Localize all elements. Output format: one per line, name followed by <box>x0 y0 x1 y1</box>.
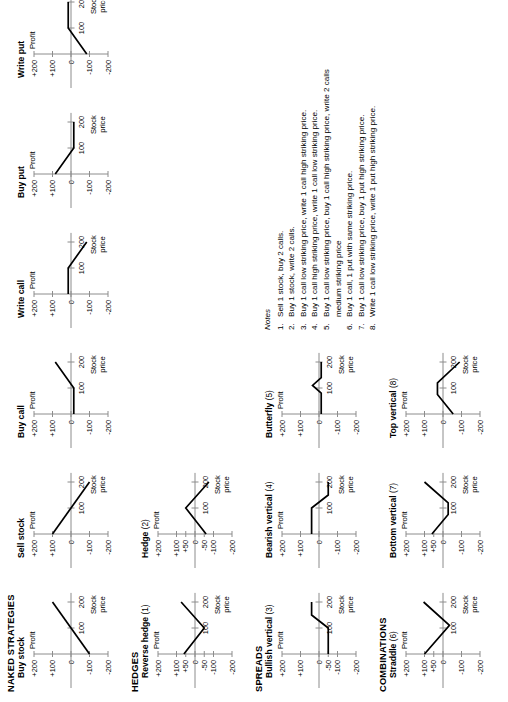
profit-tick-label: +200 <box>402 420 411 437</box>
note-item: 1.Sell 1 stock, buy 2 calls. <box>275 69 287 330</box>
profit-tick-label: +100 <box>296 540 305 557</box>
profit-tick-label: +100 <box>48 660 57 677</box>
profit-tick-label: +200 <box>278 420 287 437</box>
stock-price-tick-label: 100 <box>325 622 334 634</box>
profit-tick-label: +200 <box>278 540 287 557</box>
profit-tick-label: -100 <box>457 420 466 435</box>
stock-price-axis-label-line1: Stock <box>337 475 346 494</box>
note-text: Sell 1 stock, buy 2 calls. <box>276 231 285 317</box>
stock-price-axis-label-line1: Stock <box>89 115 98 134</box>
stock-price-tick-label: 100 <box>77 502 86 514</box>
chart-plot: +200+100+500-100-200100200ProfitStockpri… <box>397 462 493 574</box>
stock-price-axis-label-line2: price <box>470 476 479 492</box>
profit-tick-label: +100 <box>172 660 181 677</box>
note-number: 2. <box>286 317 298 330</box>
chart-hedge: Hedge (2)+200+100+500-50-100-200100200Pr… <box>140 424 252 574</box>
stock-price-axis-label-line1: Stock <box>89 355 98 374</box>
profit-tick-label: +200 <box>30 420 39 437</box>
profit-axis-label: Profit <box>28 150 37 169</box>
rotated-page-wrapper: NAKED STRATEGIES HEDGES SPREADS COMBINAT… <box>0 0 508 702</box>
note-number: 4. <box>309 317 321 330</box>
stock-price-axis-label-line2: price <box>346 476 355 492</box>
stock-price-tick-label: 100 <box>201 622 210 634</box>
stock-price-axis-label-line2: price <box>346 596 355 612</box>
profit-axis-label: Profit <box>28 630 37 649</box>
stock-price-tick-label: 100 <box>77 382 86 394</box>
profit-tick-label: +50 <box>181 540 190 553</box>
profit-tick-label: +100 <box>172 540 181 557</box>
note-item: 2.Buy 1 stock, write 2 calls. <box>286 69 298 330</box>
profit-tick-label: -200 <box>104 420 113 435</box>
profit-tick-label: -100 <box>209 660 218 675</box>
profit-tick-label: +50 <box>429 660 438 673</box>
note-item: 3.Buy 1 call low striking price, write 1… <box>298 69 310 330</box>
stock-price-tick-label: 100 <box>201 502 210 514</box>
note-number: 8. <box>367 317 379 330</box>
stock-price-axis-label-line2: price <box>98 0 107 13</box>
chart-plot: +200+1000-100-200100200ProfitStockprice <box>273 342 369 454</box>
profit-tick-label: -200 <box>476 540 485 555</box>
stock-price-axis-label-line1: Stock <box>337 355 346 374</box>
stock-price-axis-label-line2: price <box>222 476 231 492</box>
page: NAKED STRATEGIES HEDGES SPREADS COMBINAT… <box>0 0 508 702</box>
stock-price-tick-label: 100 <box>77 142 86 154</box>
note-text: Buy 1 call high striking price, write 1 … <box>310 110 319 317</box>
profit-tick-label: +200 <box>30 60 39 77</box>
profit-tick-label: +200 <box>154 540 163 557</box>
notes-block: Notes 1.Sell 1 stock, buy 2 calls.2.Buy … <box>262 69 379 330</box>
profit-axis-label: Profit <box>276 630 285 649</box>
profit-tick-label: -100 <box>457 660 466 675</box>
profit-tick-label: +200 <box>402 660 411 677</box>
profit-tick-label: -100 <box>333 420 342 435</box>
note-item: 7.Buy 1 call low striking price, buy 1 p… <box>356 69 368 330</box>
stock-price-axis-label-line2: price <box>98 116 107 132</box>
note-item: 6.Buy 1 call, 1 put with same striking p… <box>344 69 356 330</box>
section-heading-combinations: COMBINATIONS <box>378 617 388 692</box>
profit-tick-label: -100 <box>333 660 342 675</box>
stock-price-tick-label: 200 <box>77 596 86 608</box>
profit-tick-label: -50 <box>200 540 209 551</box>
stock-price-axis-label-line2: price <box>98 476 107 492</box>
profit-axis-label: Profit <box>28 270 37 289</box>
stock-price-axis-label-line2: price <box>98 356 107 372</box>
chart-plot: +200+100+500-50-100-200100200ProfitStock… <box>149 462 245 574</box>
note-text: Buy 1 call low striking price, write 1 c… <box>299 110 308 317</box>
profit-tick-label: -100 <box>457 540 466 555</box>
chart-plot: +200+1000-100-200100200ProfitStockprice <box>25 0 121 94</box>
stock-price-axis-label-line1: Stock <box>89 475 98 494</box>
profit-tick-label: -50 <box>200 660 209 671</box>
stock-price-axis-label-line1: Stock <box>89 235 98 254</box>
chart-plot: +200+1000-100-200100200ProfitStockprice <box>25 222 121 334</box>
note-number: 7. <box>356 317 368 330</box>
profit-tick-label: +100 <box>420 540 429 557</box>
stock-price-axis-label-line1: Stock <box>213 595 222 614</box>
stock-price-tick-label: 200 <box>77 476 86 488</box>
chart-plot: +200+1000-100-200100200ProfitStockprice <box>25 342 121 454</box>
profit-tick-label: +100 <box>420 660 429 677</box>
chart-plot: +200+1000-100-200100200ProfitStockprice <box>273 462 369 574</box>
stock-price-axis-label-line1: Stock <box>461 595 470 614</box>
profit-tick-label: -100 <box>209 540 218 555</box>
stock-price-axis-label-line1: Stock <box>89 0 98 14</box>
notes-heading: Notes <box>262 69 274 330</box>
chart-top-vertical: Top vertical (8)+200+1000-100-200100200P… <box>388 304 500 454</box>
chart-plot: +200+1000-100-200100200ProfitStockprice <box>25 102 121 214</box>
profit-axis-label: Profit <box>28 510 37 529</box>
stock-price-tick-label: 200 <box>449 476 458 488</box>
profit-axis-label: Profit <box>276 390 285 409</box>
stock-price-tick-label: 100 <box>449 502 458 514</box>
profit-tick-label: -200 <box>228 660 237 675</box>
profit-tick-label: -100 <box>85 660 94 675</box>
profit-axis-label: Profit <box>276 510 285 529</box>
profit-tick-label: -200 <box>104 660 113 675</box>
profit-tick-label: +200 <box>154 660 163 677</box>
profit-tick-label: -200 <box>228 540 237 555</box>
stock-price-tick-label: 200 <box>449 356 458 368</box>
profit-tick-label: -200 <box>104 180 113 195</box>
profit-tick-label: +100 <box>48 180 57 197</box>
profit-tick-label: +200 <box>30 300 39 317</box>
profit-tick-label: +100 <box>296 420 305 437</box>
profit-tick-label: -200 <box>104 540 113 555</box>
profit-tick-label: +200 <box>30 660 39 677</box>
profit-tick-label: +100 <box>296 660 305 677</box>
